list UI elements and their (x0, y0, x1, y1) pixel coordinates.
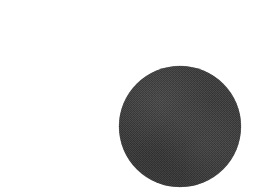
figure-area (0, 0, 253, 195)
scanned-figure-canvas (0, 0, 253, 195)
filled-circle-shape (119, 66, 241, 187)
